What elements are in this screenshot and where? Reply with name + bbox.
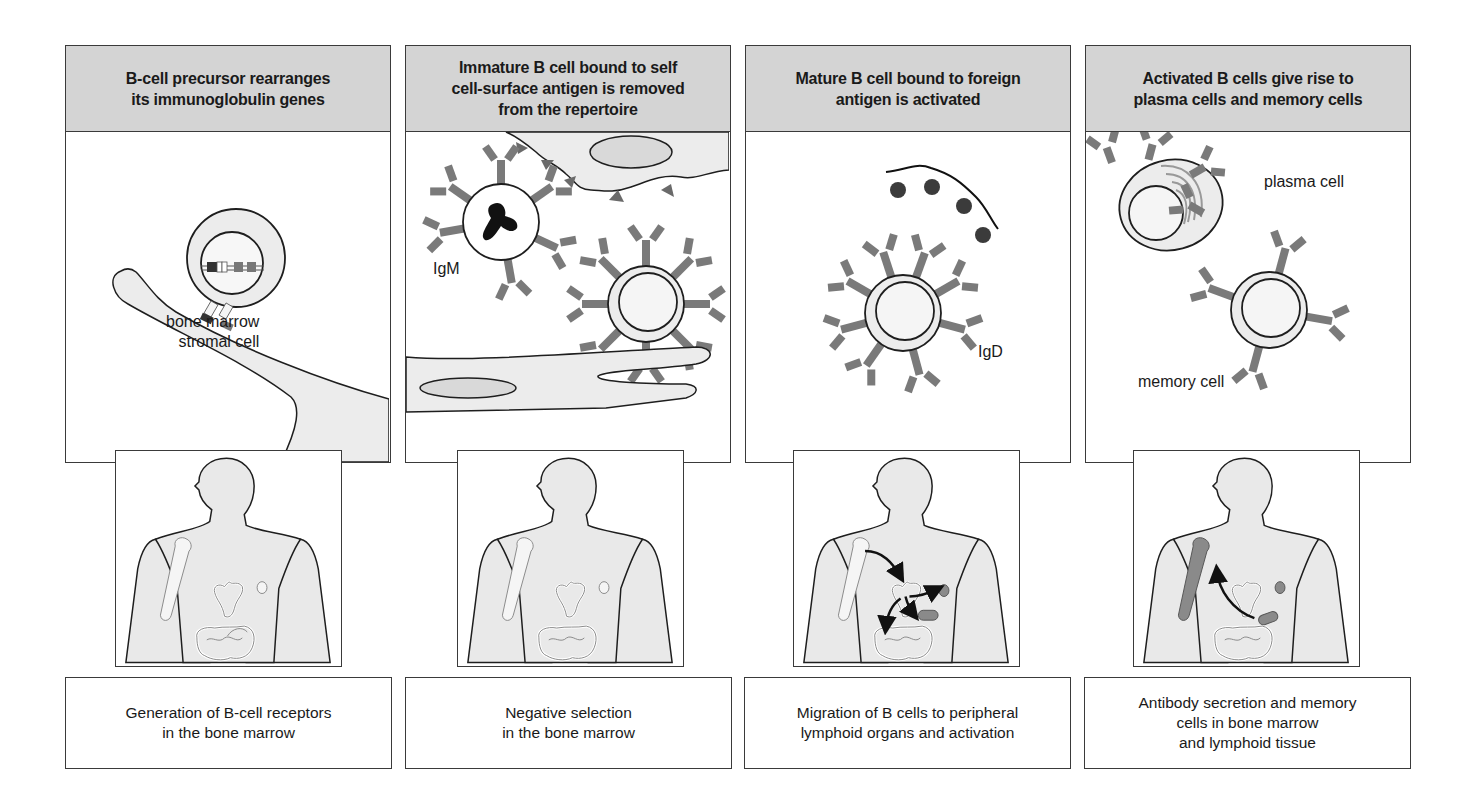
- panel-2-caption: Negative selection in the bone marrow: [502, 703, 635, 743]
- panel-3-illustration: IgD: [746, 132, 1069, 462]
- lymph-node-icon: [918, 610, 938, 620]
- panel-4-caption: Antibody secretion and memory cells in b…: [1139, 693, 1357, 753]
- panel-1-body-map: [115, 450, 342, 667]
- spleen-icon: [1275, 582, 1285, 594]
- panel-4-title: Activated B cells give rise to plasma ce…: [1134, 68, 1363, 110]
- spleen-icon: [257, 582, 267, 594]
- panel-1-illustration: bone marrow stromal cell: [66, 132, 389, 462]
- panel-4-illustration: plasma cell memory cell: [1086, 132, 1409, 462]
- foreign-antigen: [886, 166, 998, 229]
- plasma-cell: [1109, 148, 1233, 262]
- panel-3: Mature B cell bound to foreign antigen i…: [745, 45, 1071, 463]
- panel-2-body-map: [457, 450, 684, 667]
- panel-3-title: Mature B cell bound to foreign antigen i…: [795, 68, 1020, 110]
- panel-1-caption-box: Generation of B-cell receptors in the bo…: [65, 677, 392, 769]
- panel-1-title: B-cell precursor rearranges its immunogl…: [126, 68, 330, 110]
- panel-1-header: B-cell precursor rearranges its immunogl…: [66, 46, 390, 132]
- plasma-cell-label: plasma cell: [1264, 172, 1344, 192]
- panel-1-caption: Generation of B-cell receptors in the bo…: [126, 703, 332, 743]
- panel-4: Activated B cells give rise to plasma ce…: [1085, 45, 1411, 463]
- panel-3-caption-box: Migration of B cells to peripheral lymph…: [744, 677, 1071, 769]
- panel-2-caption-box: Negative selection in the bone marrow: [405, 677, 732, 769]
- panel-3-caption: Migration of B cells to peripheral lymph…: [797, 703, 1018, 743]
- memory-cell-label: memory cell: [1138, 372, 1224, 392]
- panel-2-illustration: IgM: [406, 132, 729, 462]
- panel-4-caption-box: Antibody secretion and memory cells in b…: [1084, 677, 1411, 769]
- panel-4-header: Activated B cells give rise to plasma ce…: [1086, 46, 1410, 132]
- igd-label: IgD: [978, 342, 1003, 362]
- stromal-cell-label: bone marrow stromal cell: [166, 312, 259, 352]
- igm-label: IgM: [433, 259, 460, 279]
- memory-cell: [1188, 228, 1351, 392]
- spleen-icon: [939, 585, 949, 597]
- panel-3-body-map: [793, 450, 1020, 667]
- panel-2-header: Immature B cell bound to self cell-surfa…: [406, 46, 730, 132]
- panel-3-header: Mature B cell bound to foreign antigen i…: [746, 46, 1070, 132]
- b-cell-development-figure: B-cell precursor rearranges its immunogl…: [0, 0, 1476, 809]
- panel-1: B-cell precursor rearranges its immunogl…: [65, 45, 391, 463]
- mature-b-cell: [821, 231, 985, 395]
- panel-2: Immature B cell bound to self cell-surfa…: [405, 45, 731, 463]
- panel-2-title: Immature B cell bound to self cell-surfa…: [451, 57, 684, 120]
- panel-4-body-map: [1133, 450, 1360, 667]
